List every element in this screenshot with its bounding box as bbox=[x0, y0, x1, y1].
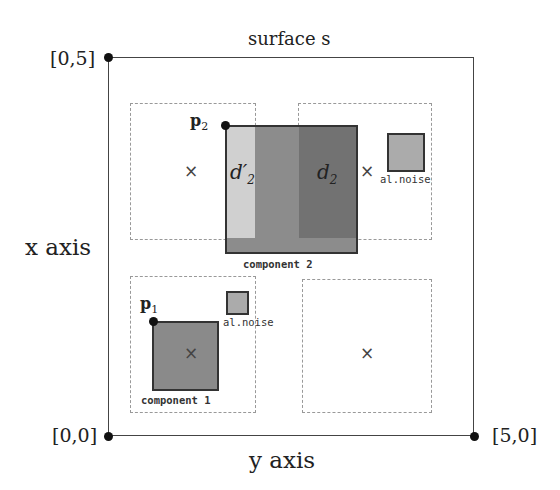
corner-dot-top-left bbox=[104, 53, 113, 62]
x-axis-label: x axis bbox=[25, 234, 91, 260]
surface-title: surface s bbox=[248, 28, 331, 49]
corner-label-bottom-right: [5,0] bbox=[492, 424, 537, 446]
noise-label-2: al.noise bbox=[380, 173, 431, 185]
point-p2-label: p2 bbox=[190, 111, 208, 133]
corner-dot-bottom-right bbox=[470, 432, 479, 441]
y-axis-label: y axis bbox=[249, 447, 315, 473]
point-p1-label: p1 bbox=[140, 294, 158, 316]
region-d2-prime-label: d′2 bbox=[230, 160, 255, 187]
noise-label-1: al.noise bbox=[223, 316, 274, 328]
cell-center-cross: × bbox=[360, 161, 374, 181]
component-2-label: component 2 bbox=[243, 258, 313, 270]
corner-label-top-left: [0,5] bbox=[50, 47, 95, 69]
point-p1-dot bbox=[149, 317, 158, 326]
component-1-cross: × bbox=[184, 343, 198, 363]
region-d2-label: d2 bbox=[317, 160, 337, 187]
corner-label-bottom-left: [0,0] bbox=[52, 424, 97, 446]
cell-center-cross: × bbox=[184, 161, 198, 181]
corner-dot-bottom-left bbox=[104, 432, 113, 441]
component-2-box: d′2 d2 bbox=[225, 125, 358, 254]
cell-center-cross: × bbox=[360, 343, 374, 363]
point-p2-dot bbox=[221, 121, 230, 130]
component-1-label: component 1 bbox=[141, 394, 211, 406]
noise-box-1 bbox=[226, 291, 249, 315]
noise-box-2 bbox=[387, 133, 425, 172]
